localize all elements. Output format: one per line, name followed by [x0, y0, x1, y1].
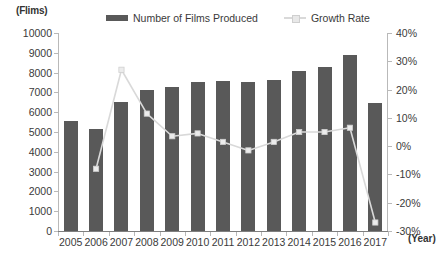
growth-rate-marker-8 — [297, 129, 302, 134]
growth-rate-marker-1 — [119, 67, 124, 72]
growth-rate-marker-0 — [93, 166, 98, 171]
growth-rate-marker-2 — [144, 111, 149, 116]
legend-label-films: Number of Films Produced — [133, 12, 258, 24]
legend-item-growth: Growth Rate — [284, 12, 370, 24]
y-tick-label-left: 0 — [6, 225, 52, 237]
y-tick-label-right: 20% — [396, 84, 436, 96]
x-tick — [58, 232, 59, 236]
y-tick-label-left: 7000 — [6, 86, 52, 98]
y-tick-label-left: 6000 — [6, 106, 52, 118]
growth-rate-marker-6 — [246, 148, 251, 153]
x-tick — [83, 232, 84, 236]
growth-rate-marker-5 — [220, 139, 225, 144]
legend-label-growth: Growth Rate — [311, 12, 370, 24]
legend-item-films: Number of Films Produced — [106, 12, 258, 24]
y-tick-label-left: 4000 — [6, 146, 52, 158]
y-tick-right — [388, 61, 392, 62]
x-tick — [363, 232, 364, 236]
growth-rate-marker-11 — [373, 220, 378, 225]
y-tick-label-right: -30% — [396, 225, 436, 237]
chart-container: (Flims) (Year) Number of Films Produced … — [0, 0, 447, 257]
plot-area: 0100020003000400050006000700080009000100… — [58, 33, 388, 232]
x-tick — [134, 232, 135, 236]
y-tick-label-right: 30% — [396, 55, 436, 67]
y-tick-label-left: 8000 — [6, 67, 52, 79]
y-tick-label-left: 1000 — [6, 205, 52, 217]
y-axis-unit-label: (Flims) — [16, 5, 47, 16]
y-tick-label-right: -20% — [396, 197, 436, 209]
legend-bar-swatch-icon — [106, 15, 128, 21]
y-tick-label-left: 9000 — [6, 47, 52, 59]
growth-rate-line-series — [58, 33, 388, 232]
y-tick-label-left: 5000 — [6, 126, 52, 138]
x-tick — [261, 232, 262, 236]
growth-rate-marker-3 — [170, 134, 175, 139]
y-tick-right — [388, 118, 392, 119]
x-tick — [236, 232, 237, 236]
y-tick-label-right: 10% — [396, 112, 436, 124]
x-tick — [160, 232, 161, 236]
growth-rate-line — [96, 70, 375, 223]
growth-rate-marker-4 — [195, 131, 200, 136]
x-tick — [312, 232, 313, 236]
growth-rate-marker-10 — [347, 125, 352, 130]
growth-rate-marker-7 — [271, 139, 276, 144]
y-tick-label-left: 10000 — [6, 27, 52, 39]
x-tick — [210, 232, 211, 236]
x-tick — [388, 232, 389, 236]
x-tick — [109, 232, 110, 236]
y-tick-label-right: 0% — [396, 140, 436, 152]
x-tick — [337, 232, 338, 236]
x-tick-label-2017: 2017 — [355, 236, 395, 248]
y-tick-label-right: 40% — [396, 27, 436, 39]
y-tick-right — [388, 90, 392, 91]
y-tick-label-left: 2000 — [6, 185, 52, 197]
chart-legend: Number of Films Produced Growth Rate — [106, 12, 370, 24]
y-tick-right — [388, 33, 392, 34]
legend-line-swatch-icon — [284, 14, 306, 22]
x-tick — [286, 232, 287, 236]
y-tick-right — [388, 174, 392, 175]
y-tick-right — [388, 203, 392, 204]
y-tick-label-left: 3000 — [6, 166, 52, 178]
x-tick — [185, 232, 186, 236]
y-tick-label-right: -10% — [396, 168, 436, 180]
y-tick-right — [388, 146, 392, 147]
growth-rate-marker-9 — [322, 129, 327, 134]
